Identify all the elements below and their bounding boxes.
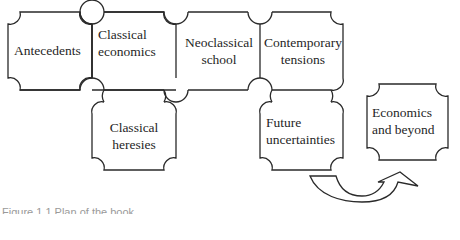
label-line: school [178, 51, 260, 68]
label-line: uncertainties [266, 131, 335, 148]
label-future-uncertainties: Future uncertainties [266, 114, 335, 148]
label-line: tensions [260, 51, 346, 68]
label-line: Classical [92, 119, 176, 136]
label-line: economics [98, 43, 156, 60]
label-neoclassical-school: Neoclassical school [178, 34, 260, 68]
label-antecedents: Antecedents [14, 42, 81, 59]
figure-caption: Figure 1.1 Plan of the book [2, 206, 134, 214]
label-line: Future [266, 114, 335, 131]
label-line: Classical [98, 26, 156, 43]
label-line: Economics [372, 104, 435, 121]
label-line: heresies [92, 136, 176, 153]
label-contemporary-tensions: Contemporary tensions [260, 34, 346, 68]
label-classical-heresies: Classical heresies [92, 119, 176, 153]
label-economics-and-beyond: Economics and beyond [372, 104, 435, 138]
label-line: Contemporary [260, 34, 346, 51]
label-line: and beyond [372, 121, 435, 138]
label-classical-economics: Classical economics [98, 26, 156, 60]
curved-arrow [310, 172, 418, 202]
label-line: Neoclassical [178, 34, 260, 51]
